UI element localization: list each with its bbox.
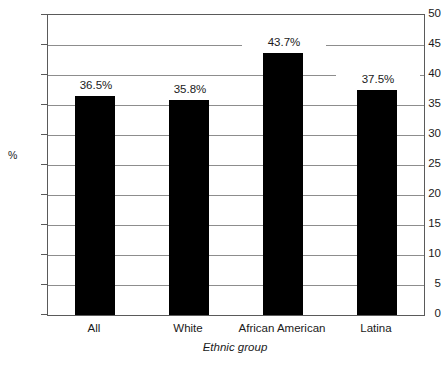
bar-value-label: 35.8%: [148, 83, 232, 95]
bar-chart: % 05101520253035404550 36.5%35.8%43.7%37…: [0, 0, 441, 371]
bar: [75, 96, 115, 315]
plot-area: [47, 14, 425, 316]
bar-value-label: 43.7%: [242, 36, 326, 48]
y-axis-title: %: [8, 150, 17, 161]
bar: [263, 53, 303, 315]
bar: [169, 100, 209, 315]
x-axis-title: Ethnic group: [47, 341, 423, 354]
bar-value-label: 37.5%: [336, 73, 420, 85]
x-category-label: Latina: [316, 322, 436, 335]
bar-value-label: 36.5%: [54, 79, 138, 91]
gridline: [48, 45, 424, 46]
bar: [357, 90, 397, 315]
